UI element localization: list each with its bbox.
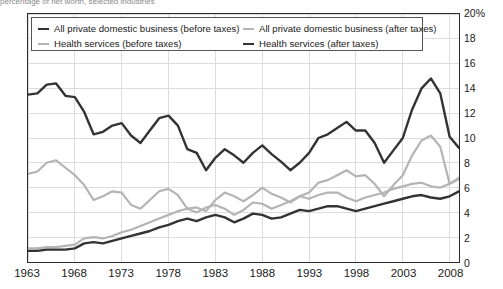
legend-swatch-icon xyxy=(243,28,254,30)
y-axis-tick: 8 xyxy=(464,158,470,168)
legend-swatch-icon xyxy=(243,43,254,45)
y-axis-tick: 16 xyxy=(464,58,476,68)
legend-item-all-business-before-taxes[interactable]: All private domestic business (before ta… xyxy=(38,21,243,36)
x-axis-tick: 1983 xyxy=(202,266,228,280)
x-axis-tick: 1973 xyxy=(108,266,134,280)
y-axis-tick: 2 xyxy=(464,233,470,243)
clipped-caption: percentage of net worth, selected indust… xyxy=(0,0,503,9)
x-axis-tick: 2003 xyxy=(391,266,417,280)
y-axis-tick: 12 xyxy=(464,108,476,118)
legend-item-all-business-after-taxes[interactable]: All private domestic business (after tax… xyxy=(243,21,437,36)
chart-legend: All private domestic business (before ta… xyxy=(31,17,423,51)
legend-swatch-icon xyxy=(38,28,49,30)
clipped-caption-text: percentage of net worth, selected indust… xyxy=(0,0,155,6)
legend-label: Health services (before taxes) xyxy=(54,38,181,50)
x-axis-tick: 1988 xyxy=(250,266,276,280)
legend-label: Health services (after taxes) xyxy=(259,38,378,50)
y-axis-tick: 18 xyxy=(464,33,476,43)
legend-row-2: Health services (before taxes) Health se… xyxy=(38,36,416,51)
y-axis-tick: 14 xyxy=(464,83,476,93)
y-axis-tick: 20% xyxy=(464,8,485,18)
legend-label: All private domestic business (before ta… xyxy=(54,23,240,35)
x-axis-tick: 1978 xyxy=(155,266,181,280)
legend-item-health-services-before-taxes[interactable]: Health services (before taxes) xyxy=(38,36,243,51)
x-axis: 1963196819731978198319881993199820032008 xyxy=(0,266,503,289)
legend-swatch-icon xyxy=(38,43,49,45)
series-lines xyxy=(28,14,459,262)
chart-root: percentage of net worth, selected indust… xyxy=(0,0,503,289)
legend-item-health-services-after-taxes[interactable]: Health services (after taxes) xyxy=(243,36,416,51)
x-axis-tick: 1963 xyxy=(14,266,40,280)
y-axis-tick: 10 xyxy=(464,133,476,143)
y-axis-tick: 4 xyxy=(464,208,470,218)
y-axis: 20%181614121086420 xyxy=(464,0,503,289)
x-axis-tick: 2008 xyxy=(438,266,464,280)
x-axis-tick: 1998 xyxy=(344,266,370,280)
x-axis-tick: 1993 xyxy=(297,266,323,280)
legend-label: All private domestic business (after tax… xyxy=(259,23,437,35)
x-axis-tick: 1968 xyxy=(61,266,87,280)
legend-row-1: All private domestic business (before ta… xyxy=(38,21,416,36)
y-axis-tick: 6 xyxy=(464,183,470,193)
